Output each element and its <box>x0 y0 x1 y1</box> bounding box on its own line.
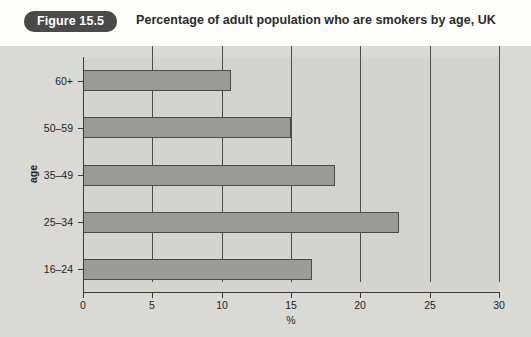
y-axis-tick-label: 25–34 <box>44 216 73 228</box>
y-axis-title: age <box>27 165 39 183</box>
y-axis-tick <box>78 222 83 223</box>
gridline <box>499 46 500 282</box>
x-axis-tick-label: 0 <box>80 299 86 311</box>
y-axis-tick-label: 16–24 <box>44 263 73 275</box>
chart-panel: 051015202530 16–2425–3435–4950–5960+ % a… <box>0 46 531 337</box>
x-axis-tick <box>499 293 500 298</box>
y-axis-tick <box>78 269 83 270</box>
gridline <box>360 46 361 282</box>
x-axis-tick <box>152 293 153 298</box>
y-axis-line <box>83 57 84 293</box>
bar <box>83 70 231 91</box>
x-axis-tick <box>430 293 431 298</box>
y-axis-tick <box>78 175 83 176</box>
x-axis-tick-label: 10 <box>216 299 228 311</box>
bar <box>83 212 399 233</box>
x-axis-tick-label: 20 <box>354 299 366 311</box>
bar <box>83 117 291 138</box>
y-axis-tick-label: 35–49 <box>44 169 73 181</box>
x-axis-tick-label: 30 <box>493 299 505 311</box>
bar <box>83 165 335 186</box>
x-axis-tick-label: 15 <box>285 299 297 311</box>
x-axis-tick-label: 5 <box>149 299 155 311</box>
gridline <box>430 46 431 282</box>
x-axis-tick-label: 25 <box>424 299 436 311</box>
figure-header: Figure 15.5 Percentage of adult populati… <box>0 0 531 46</box>
y-axis-tick <box>78 128 83 129</box>
bar <box>83 259 312 280</box>
y-axis-tick <box>78 81 83 82</box>
figure-title: Percentage of adult population who are s… <box>136 13 496 27</box>
x-axis-title: % <box>286 314 295 326</box>
figure-number-badge: Figure 15.5 <box>24 11 117 32</box>
x-axis-tick <box>222 293 223 298</box>
x-axis-tick <box>291 293 292 298</box>
y-axis-tick-label: 60+ <box>55 75 73 87</box>
figure-container: Figure 15.5 Percentage of adult populati… <box>0 0 531 337</box>
y-axis-tick-labels: 16–2425–3435–4950–5960+ <box>0 46 73 337</box>
y-axis-tick-label: 50–59 <box>44 122 73 134</box>
gridline <box>291 46 292 282</box>
x-axis-tick <box>360 293 361 298</box>
x-axis-tick <box>83 293 84 298</box>
